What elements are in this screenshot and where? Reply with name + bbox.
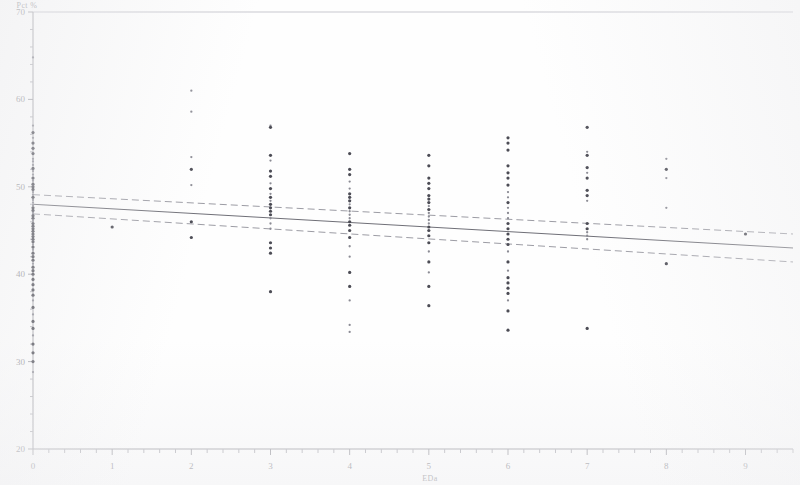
data-point xyxy=(31,360,34,363)
data-point xyxy=(32,124,34,126)
data-point xyxy=(506,238,509,241)
data-point-marker xyxy=(427,154,430,157)
data-point xyxy=(269,200,271,202)
data-point xyxy=(269,196,272,199)
data-point xyxy=(31,294,34,297)
data-point-marker xyxy=(32,199,34,201)
data-point-marker xyxy=(32,212,34,214)
data-point xyxy=(586,176,589,179)
data-point-marker xyxy=(506,260,509,263)
figure-canvas: 7060504030200123456789Pct %EDa xyxy=(0,0,800,485)
data-point-marker xyxy=(190,110,192,112)
data-point-marker xyxy=(269,217,271,219)
data-point xyxy=(507,299,509,301)
data-point xyxy=(31,269,34,272)
data-point-marker xyxy=(31,288,34,291)
data-point xyxy=(586,166,589,169)
data-point xyxy=(190,236,193,239)
data-point xyxy=(586,151,588,153)
data-point-marker xyxy=(32,173,34,175)
data-point-marker xyxy=(32,204,34,206)
data-point xyxy=(269,213,272,216)
data-point-marker xyxy=(349,203,351,205)
data-point-marker xyxy=(586,126,589,129)
data-point xyxy=(269,252,272,255)
data-point-marker xyxy=(32,160,34,162)
data-point-marker xyxy=(31,306,34,309)
data-point xyxy=(31,255,34,258)
data-point-marker xyxy=(507,299,509,301)
data-point xyxy=(506,222,509,225)
data-point-marker xyxy=(506,148,509,151)
x-axis-tick-label: 8 xyxy=(664,461,669,471)
data-point xyxy=(348,220,351,223)
x-axis-tick-label: 5 xyxy=(427,461,432,471)
data-point-marker xyxy=(190,184,192,186)
data-point-marker xyxy=(190,220,193,223)
data-point xyxy=(111,225,114,228)
data-point xyxy=(349,214,351,216)
data-point xyxy=(506,260,509,263)
data-point-marker xyxy=(427,176,430,179)
data-point-marker xyxy=(32,194,34,196)
data-point xyxy=(427,197,430,200)
data-point xyxy=(31,283,34,286)
data-point-marker xyxy=(32,56,34,58)
data-point xyxy=(665,168,668,171)
data-point xyxy=(586,227,589,230)
data-point-marker xyxy=(32,180,34,182)
data-point-marker xyxy=(506,329,509,332)
data-point xyxy=(586,154,589,157)
data-point-marker xyxy=(32,191,34,193)
data-point xyxy=(506,201,509,204)
data-point-marker xyxy=(31,196,34,199)
data-point xyxy=(32,204,34,206)
data-point-marker xyxy=(506,142,509,145)
data-point-marker xyxy=(190,156,192,158)
data-point-marker xyxy=(586,154,589,157)
data-point xyxy=(427,164,430,167)
data-point-marker xyxy=(31,327,34,330)
data-point-marker xyxy=(507,250,509,252)
data-point-marker xyxy=(269,241,272,244)
data-point-marker xyxy=(32,371,34,373)
data-point-marker xyxy=(348,236,351,239)
data-point xyxy=(32,334,34,336)
data-point-marker xyxy=(427,208,430,211)
data-point-marker xyxy=(348,229,351,232)
data-point-marker xyxy=(586,235,588,237)
data-point xyxy=(506,287,509,290)
data-point xyxy=(269,182,271,184)
data-point-marker xyxy=(586,238,588,240)
data-point xyxy=(348,271,351,274)
data-point xyxy=(428,215,430,217)
data-point xyxy=(665,262,668,265)
data-point xyxy=(506,227,509,230)
data-point xyxy=(32,56,34,58)
data-point-marker xyxy=(348,196,351,199)
data-point-marker xyxy=(31,259,34,262)
data-point-marker xyxy=(269,246,272,249)
data-point xyxy=(506,183,509,186)
data-point-marker xyxy=(269,154,272,157)
data-point-marker xyxy=(507,217,509,219)
data-point xyxy=(506,136,509,139)
data-point xyxy=(31,131,34,134)
data-point xyxy=(349,210,351,212)
data-point xyxy=(427,229,430,232)
data-point-marker xyxy=(269,206,272,209)
data-point xyxy=(190,184,192,186)
data-point-marker xyxy=(31,142,34,145)
data-point xyxy=(190,156,192,158)
data-point-marker xyxy=(348,285,351,288)
data-point xyxy=(586,231,588,233)
data-point-marker xyxy=(349,245,351,247)
data-point xyxy=(32,173,34,175)
data-point-marker xyxy=(665,207,667,209)
data-point xyxy=(32,137,34,139)
scatter-plot: 7060504030200123456789Pct %EDa xyxy=(0,0,800,485)
data-point-marker xyxy=(348,199,351,202)
data-point-marker xyxy=(427,304,430,307)
data-point xyxy=(427,241,430,244)
data-point xyxy=(32,191,34,193)
